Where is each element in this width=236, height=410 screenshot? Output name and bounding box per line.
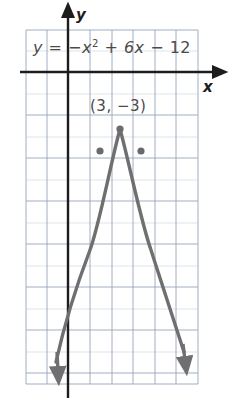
equation-term3: − 12 (150, 38, 191, 57)
point-right (137, 147, 144, 154)
equation-label: y = −x2 + 6x − 12 (33, 38, 191, 57)
equation-term2: + 6x (104, 38, 144, 57)
equation-term1: −x (68, 38, 92, 57)
point-vertex (116, 125, 123, 132)
parabola-curve (56, 129, 184, 362)
curve-left-arrow (57, 352, 58, 370)
equation-equals: = (49, 38, 63, 57)
point-left (96, 147, 103, 154)
vertex-coordinate-label: (3, −3) (90, 97, 146, 115)
graph-canvas (0, 0, 236, 410)
y-axis-label: y (76, 6, 86, 24)
curve-right-arrow (183, 344, 185, 360)
equation-exponent: 2 (92, 38, 99, 49)
equation-lhs: y (33, 38, 43, 57)
parabola-figure: y = −x2 + 6x − 12 (3, −3) y x (0, 0, 236, 410)
x-axis-label: x (203, 78, 213, 96)
grid-major (26, 30, 198, 384)
